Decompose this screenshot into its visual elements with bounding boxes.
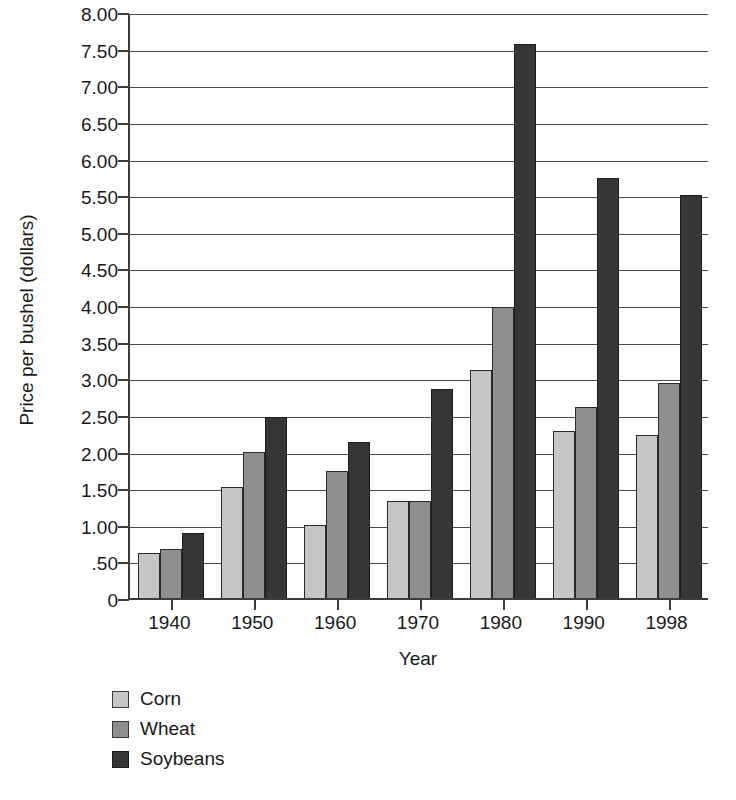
bar-group [470, 14, 536, 598]
bar-group [553, 14, 619, 598]
plot-panel [128, 14, 708, 600]
y-tick-label: 0 [107, 591, 118, 610]
bar-corn-1998 [636, 435, 658, 598]
bar-soybean-1980 [514, 44, 536, 599]
y-tick-label: 6.50 [81, 114, 118, 133]
legend-item-corn: Corn [112, 684, 412, 714]
bar-soybean-1998 [680, 195, 702, 598]
y-tick-label: 4.50 [81, 261, 118, 280]
y-tick-label: 4.00 [81, 298, 118, 317]
bar-wheat-1998 [658, 383, 680, 598]
y-tick-label: 8.00 [81, 5, 118, 24]
x-tick-mark [586, 598, 588, 610]
plot-area: Price per bushel (dollars) 8.007.507.006… [0, 0, 736, 640]
x-tick-label: 1950 [231, 612, 273, 634]
x-tick-label: 1990 [563, 612, 605, 634]
legend-label: Wheat [140, 718, 195, 740]
y-axis-title: Price per bushel (dollars) [12, 40, 42, 600]
x-tick-mark [337, 598, 339, 610]
bar-soybean-1940 [182, 533, 204, 598]
bar-corn-1950 [221, 487, 243, 598]
legend-swatch-wheat-icon [112, 721, 129, 738]
y-axis-title-text: Price per bushel (dollars) [16, 214, 38, 425]
bar-corn-1960 [304, 525, 326, 598]
x-tick-mark [420, 598, 422, 610]
bar-group [138, 14, 204, 598]
y-tick-label: 2.50 [81, 407, 118, 426]
x-tick-label: 1998 [645, 612, 687, 634]
x-tick-mark [254, 598, 256, 610]
bar-corn-1940 [138, 553, 160, 598]
y-tick-label: 3.50 [81, 334, 118, 353]
x-axis-title: Year [128, 648, 708, 670]
y-tick-label: 5.50 [81, 188, 118, 207]
bar-corn-1980 [470, 370, 492, 598]
bar-corn-1990 [553, 431, 575, 598]
legend-swatch-soybean-icon [112, 751, 129, 768]
chart-legend: CornWheatSoybeans [112, 684, 412, 774]
bar-wheat-1990 [575, 407, 597, 598]
bar-corn-1970 [387, 501, 409, 598]
y-tick-label: 2.00 [81, 444, 118, 463]
bar-wheat-1950 [243, 452, 265, 599]
bar-wheat-1980 [492, 307, 514, 598]
bar-soybean-1990 [597, 178, 619, 598]
y-tick-label: 6.00 [81, 151, 118, 170]
y-tick-label: 5.00 [81, 224, 118, 243]
x-tick-label: 1980 [480, 612, 522, 634]
bar-group [304, 14, 370, 598]
x-tick-mark [171, 598, 173, 610]
bar-group [221, 14, 287, 598]
x-tick-mark [503, 598, 505, 610]
bars-layer [130, 14, 708, 598]
bar-soybean-1950 [265, 417, 287, 598]
bar-soybean-1960 [348, 442, 370, 598]
legend-swatch-corn-icon [112, 691, 129, 708]
y-tick-label: .50 [92, 554, 118, 573]
x-tick-label: 1940 [148, 612, 190, 634]
bar-group [636, 14, 702, 598]
bar-wheat-1940 [160, 549, 182, 598]
bar-group [387, 14, 453, 598]
y-tick-label: 7.50 [81, 41, 118, 60]
x-tick-label: 1960 [314, 612, 356, 634]
y-tick-label: 7.00 [81, 78, 118, 97]
x-axis-tick-labels: 1940195019601970198019901998 [128, 612, 708, 642]
bar-chart-figure: Price per bushel (dollars) 8.007.507.006… [0, 0, 736, 800]
bar-wheat-1960 [326, 471, 348, 598]
y-tick-label: 1.00 [81, 517, 118, 536]
x-tick-label: 1970 [397, 612, 439, 634]
bar-soybean-1970 [431, 389, 453, 598]
x-tick-mark [669, 598, 671, 610]
legend-item-soybean: Soybeans [112, 744, 412, 774]
legend-label: Soybeans [140, 748, 225, 770]
y-tick-label: 1.50 [81, 481, 118, 500]
y-axis-ticks: 8.007.507.006.506.005.505.004.504.003.50… [44, 0, 128, 640]
legend-label: Corn [140, 688, 181, 710]
legend-item-wheat: Wheat [112, 714, 412, 744]
y-tick-label: 3.00 [81, 371, 118, 390]
bar-wheat-1970 [409, 501, 431, 598]
